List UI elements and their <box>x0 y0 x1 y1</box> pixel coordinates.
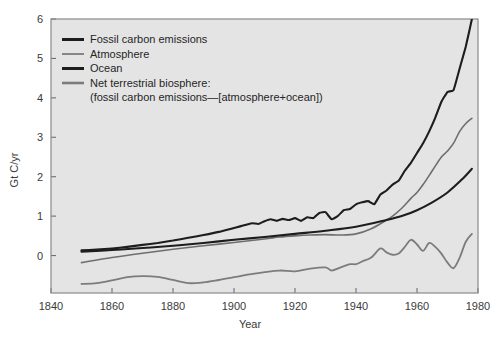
x-axis-title: Year <box>239 318 262 330</box>
emissions-line-chart: 012345618401860188019001920194019601980 … <box>0 0 501 338</box>
x-tick-label: 1960 <box>405 300 429 312</box>
x-tick-label: 1940 <box>344 300 368 312</box>
x-tick-label: 1920 <box>283 300 307 312</box>
y-tick-label: 1 <box>37 210 43 222</box>
legend-note: (fossil carbon emissions—[atmosphere+oce… <box>90 91 323 103</box>
figure-container: 012345618401860188019001920194019601980 … <box>0 0 501 338</box>
y-tick-label: 5 <box>37 52 43 64</box>
x-tick-label: 1900 <box>222 300 246 312</box>
legend-label: Atmosphere <box>90 48 149 60</box>
y-tick-label: 2 <box>37 171 43 183</box>
x-tick-label: 1880 <box>161 300 185 312</box>
y-tick-label: 3 <box>37 131 43 143</box>
y-tick-label: 4 <box>37 92 43 104</box>
legend-label: Net terrestrial biosphere: <box>90 77 210 89</box>
legend-label: Ocean <box>90 62 122 74</box>
legend-label: Fossil carbon emissions <box>90 33 208 45</box>
x-tick-label: 1840 <box>39 300 63 312</box>
x-tick-label: 1860 <box>100 300 124 312</box>
plot-area-background <box>51 19 478 293</box>
y-tick-label: 0 <box>37 250 43 262</box>
x-tick-label: 1980 <box>466 300 490 312</box>
y-tick-label: 6 <box>37 13 43 25</box>
y-axis-title: Gt C/yr <box>8 152 20 187</box>
